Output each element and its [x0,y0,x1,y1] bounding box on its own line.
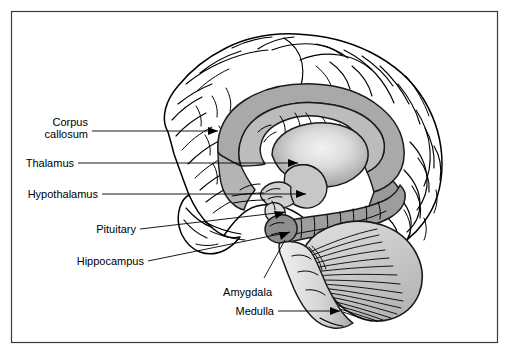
label-corpus-callosum-line1: Corpus [53,116,89,128]
diagram-canvas: Corpus callosum Thalamus Hypothalamus Pi… [0,0,512,355]
label-corpus-callosum-line2: callosum [45,128,88,140]
label-medulla: Medulla [235,305,274,317]
label-thalamus: Thalamus [26,157,75,169]
label-pituitary: Pituitary [96,223,136,235]
label-hippocampus: Hippocampus [77,255,145,267]
label-amygdala: Amygdala [223,286,273,298]
label-hypothalamus: Hypothalamus [28,188,99,200]
brain-diagram-svg: Corpus callosum Thalamus Hypothalamus Pi… [0,0,512,355]
brain-illustration [164,34,442,328]
